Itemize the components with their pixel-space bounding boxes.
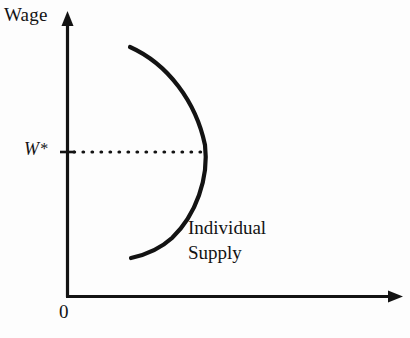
x-axis-arrowhead xyxy=(388,291,403,303)
w-letter: W xyxy=(24,139,39,159)
curve-annotation-line-2: Supply xyxy=(188,240,266,265)
individual-labor-supply-figure: Wage W* 0 Individual Supply xyxy=(0,0,410,338)
y-axis-arrowhead xyxy=(62,11,74,26)
origin-label: 0 xyxy=(59,302,69,322)
curve-annotation-line-1: Individual xyxy=(188,215,266,240)
y-axis-tick-label-wstar: W* xyxy=(24,140,49,159)
y-axis-label: Wage xyxy=(4,5,48,25)
chart-canvas xyxy=(0,0,410,338)
curve-annotation: Individual Supply xyxy=(188,215,266,265)
asterisk-glyph: * xyxy=(40,140,48,157)
